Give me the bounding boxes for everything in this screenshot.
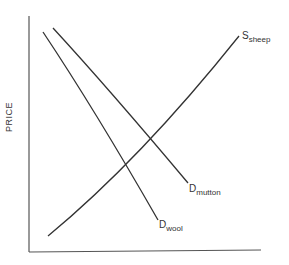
y-axis-label: PRICE — [4, 102, 14, 132]
demand-curve-wool — [43, 32, 158, 220]
x-axis — [29, 250, 261, 252]
curve-subscript: wool — [166, 224, 182, 233]
supply-curve-sheep — [48, 36, 239, 236]
diagram-canvas: PRICE Ssheep Dmutton Dwool — [0, 0, 289, 265]
label-d-mutton: Dmutton — [189, 183, 221, 197]
label-d-wool: Dwool — [159, 219, 183, 233]
label-s-sheep: Ssheep — [242, 30, 270, 44]
demand-curve-mutton — [53, 28, 188, 183]
curve-letter: S — [242, 30, 249, 41]
curve-subscript: sheep — [249, 35, 271, 44]
curve-subscript: mutton — [196, 188, 220, 197]
